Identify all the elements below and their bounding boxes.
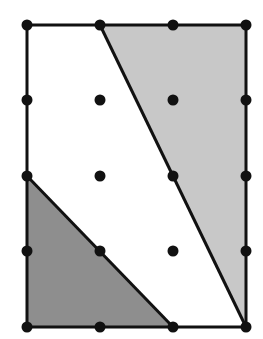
lattice-point [22, 322, 33, 333]
lattice-point [241, 246, 252, 257]
lattice-point [168, 20, 179, 31]
lattice-point [168, 246, 179, 257]
lattice-point [168, 322, 179, 333]
lattice-point [241, 95, 252, 106]
shaded-regions [27, 25, 246, 327]
lattice-point [168, 171, 179, 182]
lattice-point [22, 20, 33, 31]
lattice-point [95, 20, 106, 31]
lattice-point [22, 246, 33, 257]
lattice-point [241, 322, 252, 333]
lattice-point [22, 171, 33, 182]
lattice-diagram [0, 0, 263, 339]
lattice-point [95, 322, 106, 333]
lattice-point [95, 95, 106, 106]
lattice-point [168, 95, 179, 106]
lattice-point [241, 171, 252, 182]
lattice-point [95, 171, 106, 182]
lattice-point [241, 20, 252, 31]
lattice-point [22, 95, 33, 106]
lattice-point [95, 246, 106, 257]
